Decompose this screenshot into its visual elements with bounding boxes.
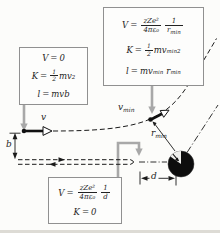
label-rmin: rmin (151, 129, 167, 138)
formula-v-d: V=zZe²4πε₀1d (49, 184, 121, 201)
incoming-arrowhead (59, 157, 66, 162)
head-on-trajectory (18, 157, 134, 166)
vmin-velocity-arrow (151, 110, 169, 119)
outgoing-arrowhead (49, 162, 56, 167)
formula-l-rmin: l=mvminrmin (104, 66, 203, 76)
head-on-box: V=zZe²4πε₀1d K=0 (48, 177, 122, 224)
label-b: b (6, 140, 12, 149)
label-vmin: vmin (118, 103, 135, 112)
connector-arrow-initial (20, 105, 27, 131)
initial-conditions-box: V=0 K=12mv2 l=mvb (19, 47, 88, 105)
nucleus-sphere (168, 151, 194, 177)
page-scan-edge (0, 230, 220, 233)
formula-l-initial: l=mvb (20, 89, 87, 99)
formula-v-rmin: V=zZe²4πε₀1rmin (104, 17, 203, 34)
formula-k-rmin: K=12mvmin2 (104, 43, 203, 58)
formula-k-d: K=0 (49, 207, 121, 217)
closest-distance-dimension (140, 172, 176, 186)
incident-particle-dot (22, 129, 27, 134)
connector-arrow-closest (148, 86, 155, 114)
incident-velocity-arrow (26, 127, 52, 136)
formula-k-initial: K=12mv2 (20, 69, 87, 84)
label-v: v (41, 113, 46, 122)
label-d: d (151, 172, 157, 181)
closest-approach-box: V=zZe²4πε₀1rmin K=12mvmin2 l=mvminrmin (103, 7, 204, 86)
formula-v-initial: V=0 (20, 53, 87, 63)
rutherford-scattering-figure: V=0 K=12mv2 l=mvb V=zZe²4πε₀1rmin K=12mv… (0, 0, 220, 233)
asymptote-line (187, 105, 218, 153)
